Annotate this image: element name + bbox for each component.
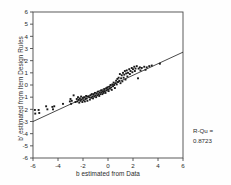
data-point — [71, 100, 73, 102]
data-point — [108, 86, 110, 88]
screenshot-root: -6-4-20246 -6-5-4-3-2-10123456 b estimat… — [0, 0, 231, 185]
data-point — [116, 83, 118, 85]
data-point — [104, 90, 106, 92]
data-point — [136, 65, 138, 67]
data-point — [53, 105, 55, 107]
data-point — [62, 103, 64, 105]
data-point — [118, 77, 120, 79]
data-point — [103, 88, 105, 90]
data-point — [95, 96, 97, 98]
y-tick-label: 0 — [25, 81, 29, 88]
data-point — [125, 72, 127, 74]
data-point — [137, 77, 139, 79]
plot-canvas: -6-4-20246 -6-5-4-3-2-10123456 — [0, 0, 231, 185]
data-point — [111, 89, 113, 91]
data-point — [132, 68, 134, 70]
data-point — [81, 101, 83, 103]
data-point — [139, 66, 141, 68]
data-point — [69, 100, 71, 102]
data-point — [120, 77, 122, 79]
data-point — [126, 69, 128, 71]
data-point — [148, 65, 150, 67]
data-point — [75, 101, 77, 103]
data-point — [102, 90, 104, 92]
data-point — [51, 106, 53, 108]
r-squared-annotation: R-Qu = 0.8723 — [193, 126, 213, 145]
data-point — [34, 113, 36, 115]
data-point — [70, 98, 72, 100]
scatter-plot-figure: -6-4-20246 -6-5-4-3-2-10123456 b estimat… — [0, 0, 231, 185]
data-point — [134, 70, 136, 72]
data-point — [86, 97, 88, 99]
data-point — [76, 98, 78, 100]
data-point — [34, 109, 36, 111]
data-point — [110, 84, 112, 86]
data-point — [130, 70, 132, 72]
data-point — [78, 102, 80, 104]
y-tick-label: 3 — [25, 45, 29, 52]
data-point — [38, 109, 40, 111]
y-axis-title: b' estimated from Item Design Rules — [17, 14, 24, 164]
data-point — [113, 82, 115, 84]
y-tick-label: 4 — [25, 33, 29, 40]
data-point — [73, 94, 75, 96]
data-point — [123, 77, 125, 79]
data-point — [88, 96, 90, 98]
data-point — [86, 100, 88, 102]
data-point — [92, 97, 94, 99]
data-point — [135, 68, 137, 70]
data-point — [99, 91, 101, 93]
data-point — [93, 94, 95, 96]
data-point — [129, 73, 131, 75]
data-point — [128, 68, 130, 70]
data-point — [95, 94, 97, 96]
data-point — [91, 96, 93, 98]
x-axis-tick-labels: -6-4-20246 — [30, 162, 185, 169]
data-point — [45, 105, 47, 107]
y-tick-label: 6 — [25, 8, 29, 15]
data-point — [91, 93, 93, 95]
data-point — [81, 99, 83, 101]
data-point — [145, 69, 147, 71]
data-point — [124, 70, 126, 72]
data-point — [110, 86, 112, 88]
data-point — [120, 82, 122, 84]
data-point — [119, 73, 121, 75]
data-point — [140, 69, 142, 71]
data-point — [79, 97, 81, 99]
x-axis-title: b estimated from Data — [33, 170, 183, 177]
data-point — [98, 93, 100, 95]
y-tick-label: 1 — [25, 69, 29, 76]
data-point — [143, 66, 145, 68]
data-point — [121, 80, 123, 82]
data-point — [52, 108, 54, 110]
x-tick-label: -2 — [80, 162, 86, 169]
data-point — [111, 83, 113, 85]
data-point — [115, 80, 117, 82]
y-tick-label: 2 — [25, 57, 29, 64]
data-point — [83, 96, 85, 98]
data-point — [38, 112, 40, 114]
data-point — [141, 67, 143, 69]
x-tick-label: 4 — [156, 162, 160, 169]
data-point — [127, 72, 129, 74]
data-point — [85, 95, 87, 97]
x-tick-label: 2 — [131, 162, 135, 169]
data-point — [98, 95, 100, 97]
data-point — [77, 96, 79, 98]
data-point — [100, 90, 102, 92]
data-point — [100, 93, 102, 95]
data-point — [114, 87, 116, 89]
data-point — [113, 84, 115, 86]
data-point — [46, 108, 48, 110]
data-point — [103, 92, 105, 94]
data-point — [131, 71, 133, 73]
data-point — [126, 76, 128, 78]
data-point — [80, 96, 82, 98]
plot-frame — [33, 12, 183, 158]
data-point — [159, 63, 161, 65]
data-point — [89, 99, 91, 101]
plot-border — [33, 12, 183, 158]
data-point — [118, 80, 120, 82]
data-point — [107, 88, 109, 90]
